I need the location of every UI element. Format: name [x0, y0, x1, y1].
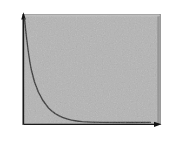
margin-bottom [0, 130, 170, 145]
plot-panel [23, 15, 161, 125]
plot-panel-noise [23, 15, 161, 125]
margin-right [162, 0, 170, 145]
margin-left [0, 0, 21, 145]
margin-top [0, 0, 170, 12]
plot-area [0, 0, 170, 145]
figure-container: Probability (R2) [0, 0, 170, 145]
